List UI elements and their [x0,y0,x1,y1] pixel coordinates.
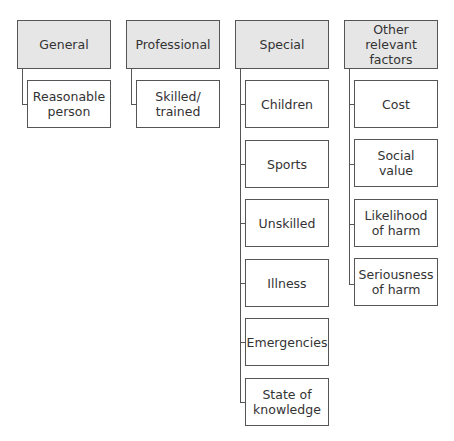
item-reasonable-person: Reasonable person [27,80,111,128]
item-label: Seriousness of harm [358,267,434,297]
item-sports: Sports [245,140,329,188]
item-state-of-knowledge: State of knowledge [245,378,329,426]
header-label: Special [259,37,304,52]
connector-line [131,69,132,105]
item-skilled-trained: Skilled/ trained [136,80,220,128]
item-label: Sports [267,157,307,172]
item-label: Skilled/ trained [148,89,208,119]
item-social-value: Social value [354,139,438,187]
item-children: Children [245,80,329,128]
connector-line [349,69,350,285]
item-label: Children [261,97,313,112]
header-special: Special [235,20,329,69]
header-professional: Professional [126,20,220,69]
header-label: Professional [135,37,210,52]
item-label: State of knowledge [251,387,323,417]
item-label: Social value [371,148,421,178]
item-illness: Illness [245,259,329,307]
item-cost: Cost [354,80,438,128]
clipped-caption [0,436,454,441]
item-unskilled: Unskilled [245,199,329,247]
header-general: General [17,20,111,69]
item-label: Unskilled [259,216,316,231]
item-emergencies: Emergencies [245,318,329,366]
item-seriousness-of-harm: Seriousness of harm [354,258,438,306]
connector-line [22,69,23,105]
header-other-relevant-factors: Other relevant factors [344,20,438,69]
header-label: General [39,37,88,52]
item-label: Illness [267,276,306,291]
item-label: Likelihood of harm [361,208,431,238]
item-label: Cost [382,97,410,112]
item-label: Reasonable person [31,89,107,119]
header-label: Other relevant factors [348,22,434,67]
item-likelihood-of-harm: Likelihood of harm [354,199,438,247]
item-label: Emergencies [247,335,328,350]
connector-line [240,69,241,403]
